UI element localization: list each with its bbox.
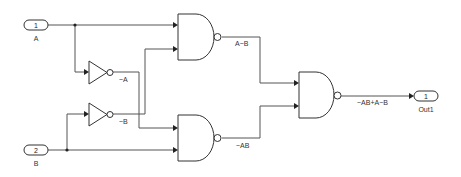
- wire-notab-to-nand3[interactable]: [222, 106, 294, 138]
- wire-a-to-not1[interactable]: [75, 25, 84, 72]
- arrow-icon: [173, 22, 178, 28]
- outport-label: Out1: [418, 106, 433, 113]
- junction-a: [73, 23, 76, 26]
- junction-b: [65, 148, 68, 151]
- not-a-label: ~A: [119, 76, 128, 83]
- wire-b-to-not2[interactable]: [67, 114, 84, 150]
- inport-b-label: B: [34, 160, 39, 167]
- inport-a-label: A: [34, 35, 39, 42]
- arrow-icon: [173, 147, 178, 153]
- arrow-icon: [84, 111, 89, 117]
- inport-a[interactable]: 1 A: [24, 20, 48, 42]
- nand-bottom-label: ~AB: [236, 142, 250, 149]
- wires: [48, 25, 409, 150]
- nand-top-label: A~B: [235, 40, 249, 47]
- outport-out1[interactable]: 1 Out1: [414, 91, 438, 113]
- circuit-canvas: 1 A 2 B ~A ~B A~B ~AB ~AB+A~B 1: [0, 0, 461, 177]
- not-b-label: ~B: [119, 118, 128, 125]
- inport-a-number: 1: [34, 22, 38, 29]
- nand-gate-final[interactable]: ~AB+A~B: [299, 72, 388, 118]
- nand-final-label: ~AB+A~B: [357, 99, 388, 106]
- arrow-icon: [173, 125, 178, 131]
- arrowheads: [84, 22, 414, 153]
- wire-anotb-to-nand3[interactable]: [222, 37, 294, 83]
- inport-b-number: 2: [34, 147, 38, 154]
- inport-b[interactable]: 2 B: [24, 145, 48, 167]
- arrow-icon: [294, 103, 299, 109]
- arrow-icon: [409, 93, 414, 99]
- arrow-icon: [84, 69, 89, 75]
- arrow-icon: [294, 80, 299, 86]
- outport-number: 1: [424, 93, 428, 100]
- arrow-icon: [173, 46, 178, 52]
